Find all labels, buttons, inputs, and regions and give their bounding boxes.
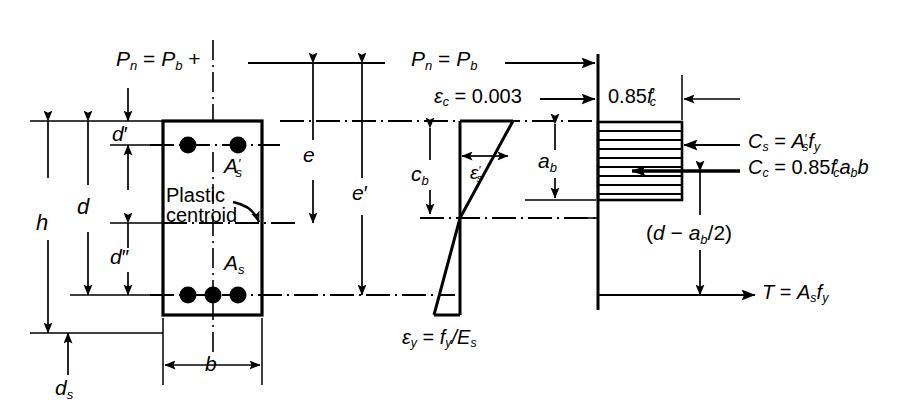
figure-canvas: Pn = Pb + Plastic centroid A′s As h d d′…: [0, 0, 916, 419]
label-dim-b: b: [205, 353, 217, 374]
rebar-bottom-left: [180, 287, 197, 304]
label-tension-steel: As: [224, 252, 245, 276]
label-force-t: T = Asfy: [762, 282, 828, 305]
label-concrete-strain: εc = 0.003: [434, 86, 522, 109]
label-concrete-stress: 0.85f′c: [608, 86, 656, 109]
rebar-bottom-mid: [205, 287, 222, 304]
label-dim-ab: ab: [538, 150, 557, 174]
label-lever-arm: (d − ab/2): [646, 222, 732, 246]
rebar-top-left: [180, 137, 197, 154]
label-dim-d-prime: d′: [112, 123, 128, 144]
label-dim-ds: ds: [55, 377, 73, 401]
label-plastic-centroid: Plastic centroid: [166, 185, 237, 225]
stress-block-rect: [598, 122, 682, 200]
label-steel-compression-strain: ε′s: [470, 163, 482, 184]
label-force-cs: Cs = A′sfy: [748, 131, 820, 154]
label-compression-steel: A′s: [224, 155, 242, 179]
label-dim-d-double-prime: d″: [110, 246, 129, 267]
label-yield-strain: εy = fy/Es: [402, 327, 477, 350]
label-dim-d: d: [77, 196, 89, 218]
label-dim-h: h: [36, 212, 48, 234]
rebar-bottom-right: [230, 287, 247, 304]
label-load-section: Pn = Pb +: [116, 48, 201, 72]
stress-block-hatch: [598, 131, 682, 194]
label-dim-cb: cb: [411, 163, 429, 187]
rebar-top-right: [230, 137, 247, 154]
label-dim-e-prime: e′: [352, 182, 368, 203]
label-load-strain: Pn = Pb: [411, 48, 477, 72]
label-force-cc: Cc = 0.85f′cabb: [748, 157, 869, 180]
label-dim-e: e: [303, 144, 315, 165]
